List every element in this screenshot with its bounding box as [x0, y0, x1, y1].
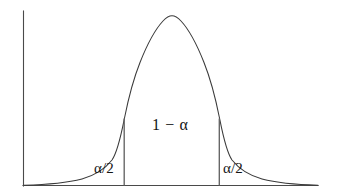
left-tail-alpha-label: α/2: [94, 161, 114, 176]
central-confidence-label: 1 − α: [152, 117, 188, 133]
right-tail-alpha-label: α/2: [223, 161, 243, 176]
distribution-plot-svg: [0, 0, 339, 196]
distribution-figure: α/2 1 − α α/2: [0, 0, 339, 196]
normal-density-curve: [24, 16, 318, 185]
